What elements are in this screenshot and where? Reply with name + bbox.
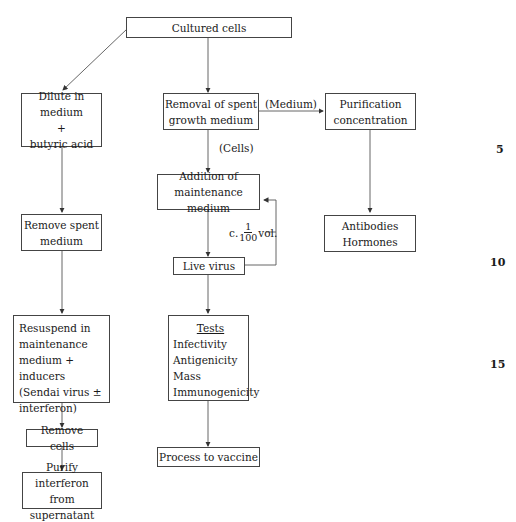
line-number-10: 10 [490,256,505,269]
edge-label-cells: (Cells) [219,142,254,154]
fraction-one-hundredth: 1 100 [239,222,257,243]
node-live-virus: Live virus [173,257,245,275]
node-addition-maintenance: Addition of maintenance medium [157,174,260,210]
node-tests: Tests Infectivity Antigenicity Mass Immu… [168,315,249,401]
line-number-15: 15 [490,358,505,371]
node-antibodies-hormones: Antibodies Hormones [324,215,416,252]
line-number-5: 5 [496,143,504,156]
node-purification: Purification concentration [325,93,416,130]
edge-label-medium: (Medium) [265,98,317,110]
node-resuspend: Resuspend in maintenance medium + induce… [13,315,110,403]
node-purify-interferon: Purify interferon from supernatant [22,472,102,509]
tests-title: Tests [173,320,248,336]
node-removal-spent-growth: Removal of spent growth medium [163,93,259,130]
node-remove-spent-medium: Remove spent medium [21,214,102,251]
node-remove-cells: Remove cells [26,429,98,447]
edge-label-loop-volume: c. 1 100 vol. [229,222,277,243]
node-dilute: Dilute in medium + butyric acid [21,93,102,147]
node-process-vaccine: Process to vaccine [157,447,260,467]
node-cultured-cells: Cultured cells [126,17,292,38]
